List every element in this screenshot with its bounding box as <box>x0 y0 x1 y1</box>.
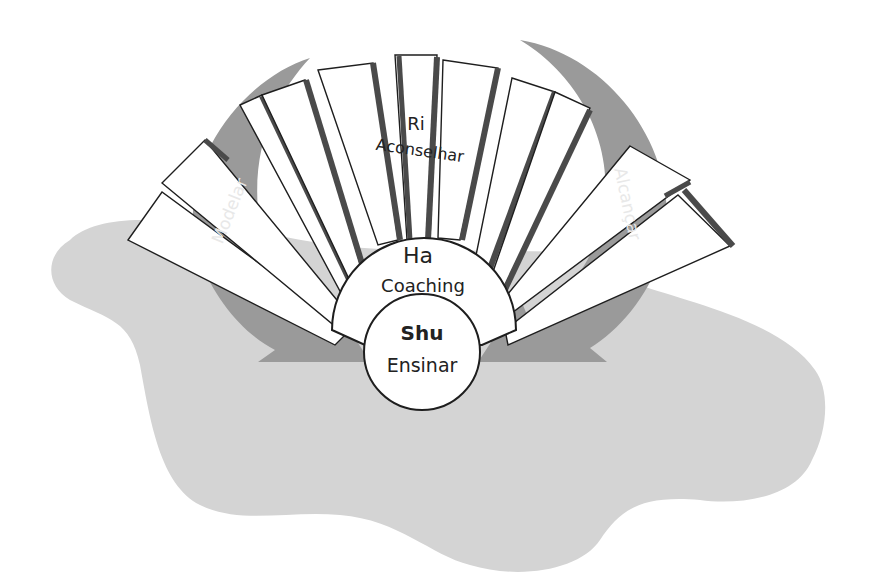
ha-subtitle: Coaching <box>381 275 465 296</box>
ha-title: Ha <box>403 243 433 268</box>
shu-subtitle: Ensinar <box>387 354 458 376</box>
ri-title: Ri <box>407 113 425 134</box>
shu-title: Shu <box>401 321 444 345</box>
shu-circle <box>364 294 480 410</box>
shu-ha-ri-diagram: Ri Aconselhar Ha Coaching Shu Ensinar Mo… <box>0 0 872 585</box>
